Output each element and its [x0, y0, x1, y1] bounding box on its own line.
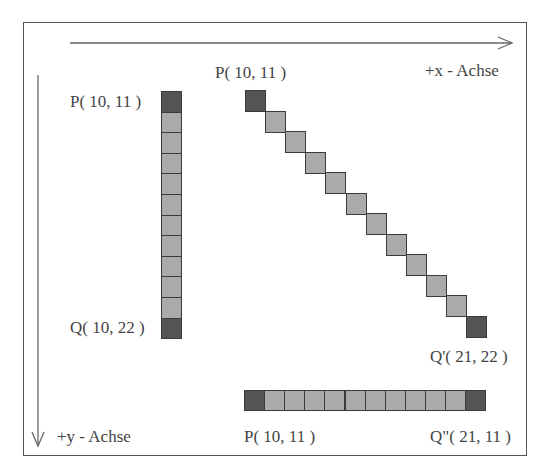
endpoint-pixel	[244, 390, 265, 411]
diagonal-start-label: P( 10, 11 )	[215, 64, 286, 81]
pixel	[405, 390, 426, 411]
pixel	[161, 235, 182, 257]
pixel	[264, 390, 285, 411]
pixel	[386, 234, 407, 256]
pixel	[445, 390, 466, 411]
pixel	[161, 132, 182, 154]
pixel	[161, 297, 182, 319]
pixel	[324, 390, 345, 411]
pixel	[425, 390, 446, 411]
pixel	[385, 390, 406, 411]
pixel	[446, 295, 467, 317]
y-axis-label: +y - Achse	[57, 428, 131, 445]
pixel	[345, 390, 366, 411]
x-axis-arrow	[70, 37, 512, 49]
vertical-start-label: P( 10, 11 )	[70, 93, 141, 110]
vertical-end-label: Q( 10, 22 )	[70, 319, 145, 336]
pixel	[346, 193, 367, 215]
diagonal-end-label: Q'( 21, 22 )	[430, 348, 508, 365]
endpoint-pixel	[161, 318, 182, 340]
pixel	[366, 213, 387, 235]
pixel	[426, 275, 447, 297]
pixel	[284, 390, 305, 411]
endpoint-pixel	[466, 316, 487, 338]
y-axis-arrow	[32, 75, 44, 446]
horizontal-end-label: Q"( 21, 11 )	[430, 428, 511, 445]
x-axis-label: +x - Achse	[425, 62, 499, 79]
pixel	[325, 172, 346, 194]
pixel	[406, 254, 427, 276]
endpoint-pixel	[161, 91, 182, 113]
pixel	[161, 153, 182, 175]
pixel	[285, 131, 306, 153]
horizontal-start-label: P( 10, 11 )	[244, 428, 315, 445]
pixel	[365, 390, 386, 411]
endpoint-pixel	[465, 390, 486, 411]
pixel	[161, 276, 182, 298]
pixel	[161, 194, 182, 216]
pixel	[304, 390, 325, 411]
pixel	[305, 152, 326, 174]
pixel	[161, 256, 182, 278]
endpoint-pixel	[245, 90, 266, 112]
pixel	[265, 111, 286, 133]
pixel	[161, 112, 182, 134]
pixel	[161, 215, 182, 237]
pixel	[161, 173, 182, 195]
